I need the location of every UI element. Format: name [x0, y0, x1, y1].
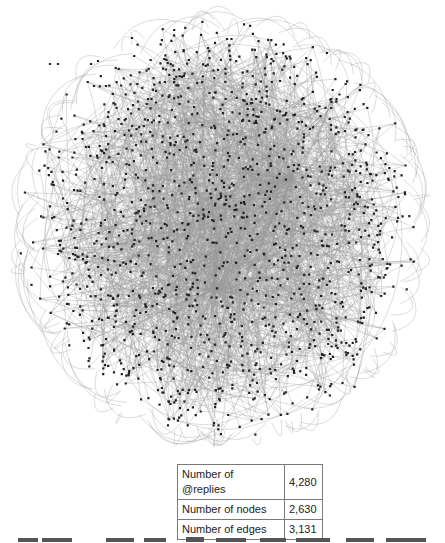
row-value: 4,280	[285, 465, 323, 500]
cropped-caption-text	[16, 537, 430, 543]
table-row: Number of nodes 2,630	[178, 500, 323, 520]
row-value: 2,630	[285, 500, 323, 520]
row-label: Number of nodes	[178, 500, 285, 520]
stats-table: Number of @replies 4,280 Number of nodes…	[177, 464, 323, 540]
edge-paths	[11, 6, 430, 447]
graph-edges	[11, 6, 430, 447]
network-graph	[0, 0, 445, 460]
row-label: Number of @replies	[178, 465, 285, 500]
table-row: Number of @replies 4,280	[178, 465, 323, 500]
